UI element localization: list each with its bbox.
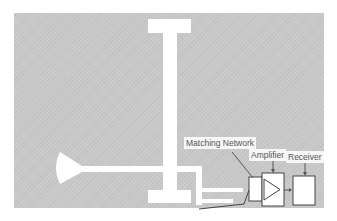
ground-connection-line xyxy=(199,190,249,209)
receiver-label: Receiver xyxy=(286,151,324,163)
arrow-head-icon xyxy=(289,188,292,192)
matching-network-label: Matching Network xyxy=(184,137,256,149)
diagram-overlay xyxy=(0,0,337,221)
amplifier-arrow-icon xyxy=(271,169,275,173)
fan-antenna-icon xyxy=(56,152,82,184)
receiver-arrow-icon xyxy=(303,172,307,176)
matching-network-box xyxy=(249,177,262,201)
amplifier-label: Amplifier xyxy=(249,149,286,161)
receiver-box xyxy=(293,176,315,205)
